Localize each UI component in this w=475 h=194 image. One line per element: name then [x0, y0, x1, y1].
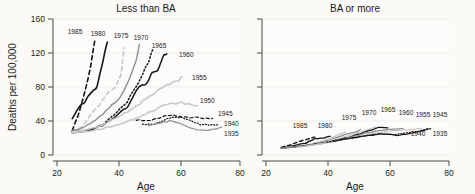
- series-label-1955: 1955: [416, 111, 431, 118]
- series-label-1980: 1980: [91, 30, 106, 37]
- right-panel-title: BA or more: [330, 3, 380, 14]
- series-label-1955: 1955: [192, 74, 207, 81]
- y-tick-label-0: 0: [40, 150, 45, 160]
- series-label-1970: 1970: [362, 109, 377, 116]
- y-tick-label-40: 40: [36, 116, 46, 126]
- series-label-1950: 1950: [200, 97, 215, 104]
- series-label-1980: 1980: [318, 122, 333, 129]
- series-label-1985: 1985: [68, 28, 83, 35]
- y-axis-title: Deaths per 100,000: [7, 43, 18, 131]
- left-panel-title: Less than BA: [116, 3, 176, 14]
- series-label-1945: 1945: [218, 110, 233, 117]
- figure-root: Less than BA 0 40 80 120 160 Deaths per …: [0, 0, 475, 194]
- right-x-tick-20: 20: [261, 168, 271, 178]
- series-label-1945: 1945: [433, 111, 448, 118]
- left-x-tick-20: 20: [52, 168, 62, 178]
- right-x-axis-title: Age: [346, 181, 364, 192]
- right-x-tick-40: 40: [323, 168, 333, 178]
- y-tick-label-160: 160: [31, 14, 45, 24]
- left-x-tick-80: 80: [235, 168, 245, 178]
- series-label-1935: 1935: [224, 130, 239, 137]
- series-label-1970: 1970: [134, 34, 149, 41]
- y-tick-label-80: 80: [36, 82, 46, 92]
- series-label-1965: 1965: [152, 42, 167, 49]
- series-label-1975: 1975: [342, 114, 357, 121]
- series-label-1940: 1940: [411, 130, 426, 137]
- series-label-1965: 1965: [381, 106, 396, 113]
- right-x-tick-60: 60: [385, 168, 395, 178]
- left-x-tick-60: 60: [176, 168, 186, 178]
- series-label-1935: 1935: [433, 130, 448, 137]
- left-x-tick-40: 40: [114, 168, 124, 178]
- series-label-1960: 1960: [179, 51, 194, 58]
- y-tick-label-120: 120: [31, 48, 45, 58]
- series-label-1940: 1940: [224, 120, 239, 127]
- series-label-1975: 1975: [114, 32, 129, 39]
- series-label-1960: 1960: [399, 109, 414, 116]
- left-x-axis-title: Age: [137, 181, 155, 192]
- right-x-tick-80: 80: [444, 168, 454, 178]
- series-label-1985: 1985: [293, 122, 308, 129]
